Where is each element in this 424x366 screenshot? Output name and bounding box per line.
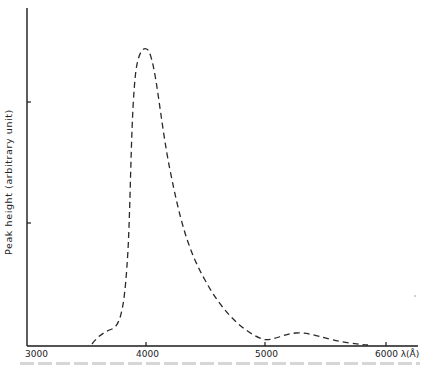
spectrum-chart: 3000 4000 5000 6000 λ(Å) Peak height (ar… [0,0,424,366]
x-tick-label-5000: 5000 [255,349,278,359]
spectrum-curve [92,49,368,345]
y-axis-label: Peak height (arbitrary unit) [3,109,14,255]
x-tick-label-6000: 6000 λ(Å) [375,348,419,359]
figure-caption-clipped [20,360,420,366]
x-tick-label-3000: 3000 [25,349,48,359]
caption-line [20,362,420,365]
scan-speck [414,295,416,297]
x-tick-label-4000: 4000 [136,349,159,359]
